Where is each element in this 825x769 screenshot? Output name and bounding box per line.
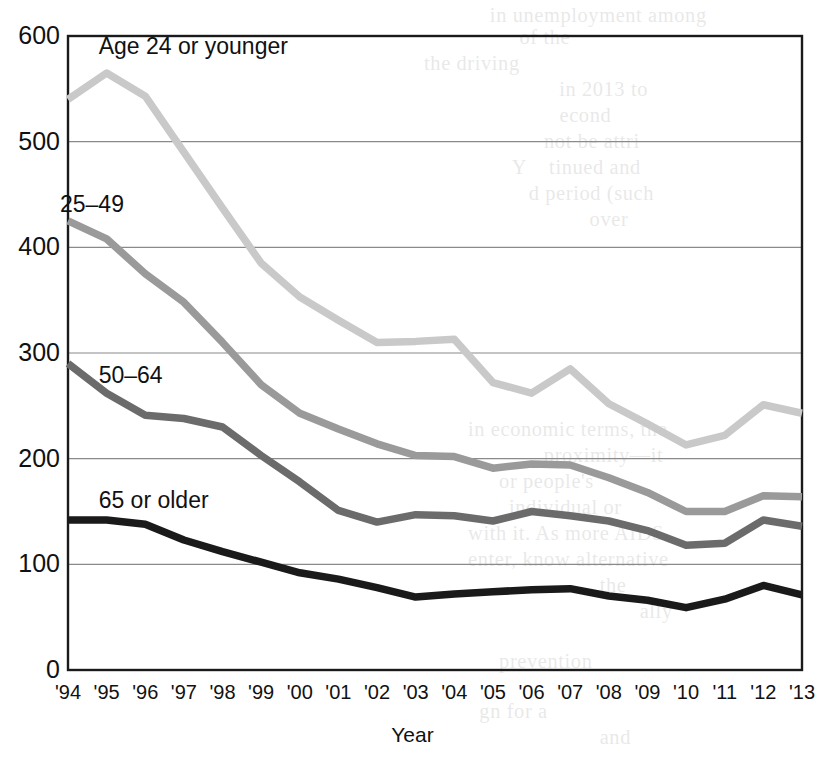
y-tick-label: 600 — [0, 23, 60, 48]
series-label-2: 50–64 — [99, 364, 163, 387]
series-label-0: Age 24 or younger — [99, 35, 288, 58]
y-tick-label: 200 — [0, 446, 60, 471]
y-tick-label: 0 — [0, 657, 60, 682]
y-tick-label: 500 — [0, 129, 60, 154]
x-axis-title: Year — [0, 724, 825, 745]
x-tick-label: '13 — [778, 682, 825, 702]
series-label-1: 25–49 — [60, 193, 124, 216]
series-line-1 — [68, 221, 802, 512]
y-tick-label: 300 — [0, 340, 60, 365]
series-label-3: 65 or older — [99, 489, 209, 512]
series-line-0 — [68, 73, 802, 445]
y-tick-label: 400 — [0, 234, 60, 259]
chart-figure: in unemployment amongof thethe drivingin… — [0, 0, 825, 769]
series-lines — [68, 73, 802, 608]
y-tick-label: 100 — [0, 551, 60, 576]
